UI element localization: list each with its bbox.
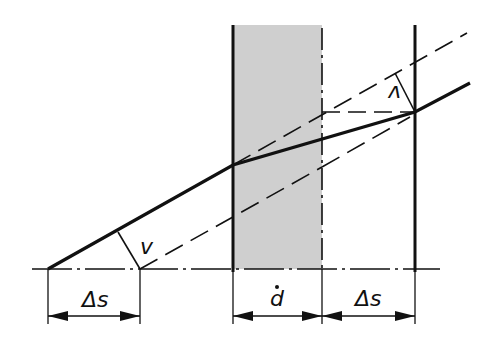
angle-label-left: v <box>140 234 154 259</box>
perp-left <box>118 232 140 269</box>
label-thickness: d <box>270 286 285 311</box>
beam-offset-diagram: v v Δs d Δs <box>0 0 496 340</box>
dashed-ref-lower-ext <box>322 117 410 167</box>
slab <box>233 25 322 269</box>
thickness-dot <box>275 285 279 289</box>
angle-label-right: v <box>387 81 401 106</box>
label-delta-s-right: Δs <box>353 286 382 311</box>
label-delta-s-left: Δs <box>80 287 109 312</box>
